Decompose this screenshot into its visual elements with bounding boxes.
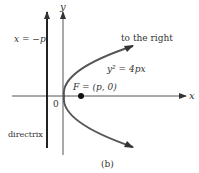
opening-label: to the right (121, 33, 173, 43)
focus-label: F = (p, 0) (72, 82, 117, 92)
figure-caption: (b) (101, 159, 114, 169)
y-axis-label: y (59, 1, 66, 12)
upper-arrow-icon (124, 45, 134, 52)
equation-label: y² = 4px (106, 64, 146, 74)
directrix-equation: x = −p (14, 34, 46, 44)
directrix-label: directrix (8, 130, 43, 139)
origin-label: 0 (53, 99, 59, 109)
parabola-diagram: y x x = −p directrix 0 F = (p, 0) y² = 4… (0, 0, 199, 173)
lower-arrow-icon (124, 141, 134, 148)
focus-point (78, 93, 84, 99)
x-axis-label: x (189, 90, 195, 101)
